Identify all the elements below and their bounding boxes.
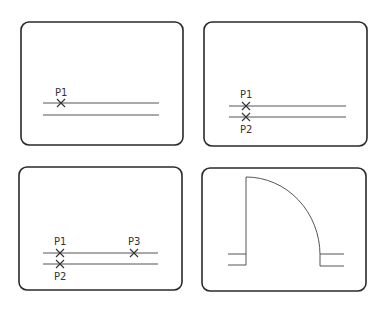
point-marker-p2: P2	[54, 260, 66, 282]
door-swing-arc	[246, 177, 320, 266]
panel-1: P1	[21, 22, 183, 145]
panel-4	[202, 168, 366, 291]
point-marker-p1: P1	[54, 236, 66, 257]
point-label: P3	[128, 236, 140, 247]
point-label: P1	[240, 89, 252, 100]
point-label: P2	[240, 124, 252, 135]
screen-frame	[202, 168, 366, 291]
point-label: P1	[55, 87, 67, 98]
screen-frame	[204, 22, 367, 146]
diagram-canvas: P1P1P2P1P2P3	[0, 0, 386, 310]
point-marker-p3: P3	[128, 236, 140, 257]
screen-frame	[19, 167, 182, 290]
point-label: P1	[54, 236, 66, 247]
screen-frame	[21, 22, 183, 145]
panel-2: P1P2	[204, 22, 367, 146]
point-marker-p1: P1	[240, 89, 252, 110]
point-marker-p2: P2	[240, 113, 252, 135]
panel-3: P1P2P3	[19, 167, 182, 290]
point-label: P2	[54, 271, 66, 282]
point-marker-p1: P1	[55, 87, 67, 107]
